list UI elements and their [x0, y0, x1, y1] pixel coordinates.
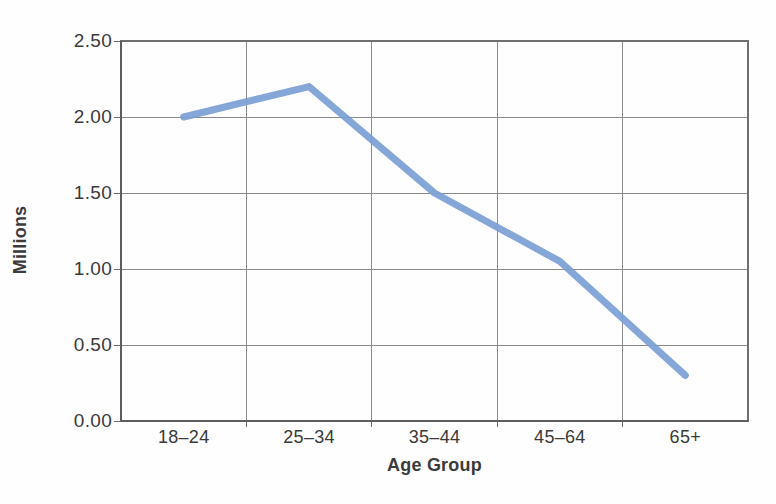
axis-tick-marks — [114, 41, 623, 427]
x-tick-label: 65+ — [623, 427, 748, 448]
line-chart: Millions 0.000.501.001.502.002.50 18–242… — [0, 0, 776, 504]
axis-lines — [121, 41, 748, 421]
data-series-line — [184, 87, 686, 376]
x-tick-label: 45–64 — [497, 427, 622, 448]
x-axis-tick-labels: 18–2425–3435–4445–6465+ — [121, 427, 748, 457]
horizontal-gridlines — [121, 41, 748, 421]
vertical-gridlines — [246, 41, 622, 421]
x-tick-label: 25–34 — [246, 427, 371, 448]
x-axis-title: Age Group — [121, 455, 748, 476]
x-tick-label: 35–44 — [372, 427, 497, 448]
x-tick-label: 18–24 — [121, 427, 246, 448]
